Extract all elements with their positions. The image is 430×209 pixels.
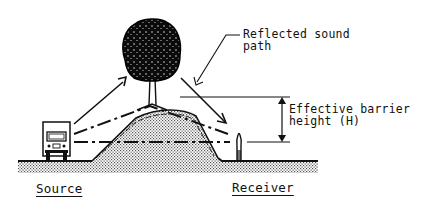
- truck-icon: [43, 122, 70, 160]
- ground: [18, 161, 318, 173]
- barrier-height-label: Effective barrier height (H): [289, 103, 410, 127]
- receiver-label: Receiver: [232, 182, 294, 194]
- earth-berm: [92, 110, 222, 161]
- person-icon: [237, 134, 242, 161]
- reflected-path-label: Reflected sound path: [243, 28, 350, 52]
- barrier-height-label-line2: height (H): [289, 115, 410, 127]
- reflected-label-leader: [194, 35, 240, 85]
- tree-icon: [123, 19, 181, 110]
- reflected-path-label-line2: path: [243, 40, 350, 52]
- noise-barrier-diagram: Reflected sound path Effective barrier h…: [0, 0, 430, 209]
- source-label: Source: [36, 183, 82, 195]
